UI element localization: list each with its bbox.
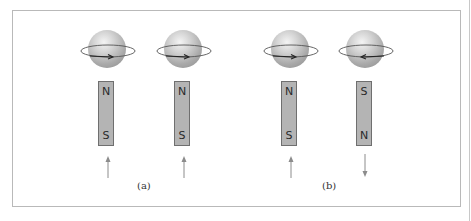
magnet-pole-bottom: S (99, 130, 113, 142)
bar-magnet: S N (356, 81, 372, 146)
spin-orbit-icon (78, 40, 138, 62)
bar-magnet: N S (281, 81, 297, 146)
spin-orbit-icon (336, 40, 396, 62)
panel-label-b: (b) (322, 180, 336, 191)
magnet-pole-bottom: S (175, 130, 189, 142)
magnet-pole-bottom: N (357, 130, 371, 142)
page-edge-line (469, 0, 470, 221)
magnet-pole-top: N (282, 86, 296, 98)
arrow-up-icon (103, 155, 113, 179)
bar-magnet: N S (98, 81, 114, 146)
spin-orbit-icon (261, 40, 321, 62)
magnet-pole-top: N (175, 86, 189, 98)
spin-orbit-icon (154, 40, 214, 62)
magnet-pole-top: S (357, 86, 371, 98)
panel-label-a: (a) (137, 180, 151, 191)
arrow-down-icon (360, 153, 370, 179)
arrow-up-icon (179, 155, 189, 179)
bar-magnet: N S (174, 81, 190, 146)
magnet-pole-bottom: S (282, 130, 296, 142)
arrow-up-icon (286, 155, 296, 179)
magnet-pole-top: N (99, 86, 113, 98)
